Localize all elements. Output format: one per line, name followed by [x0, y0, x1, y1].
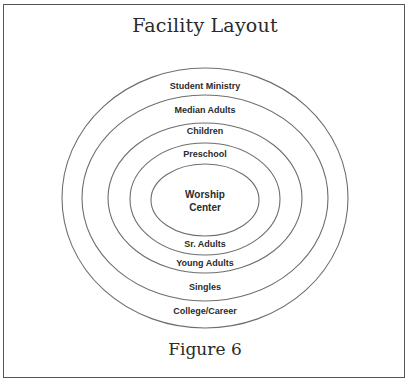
label-preschool: Preschool	[183, 149, 227, 159]
concentric-facility-diagram: Student Ministry Median Adults Children …	[0, 0, 410, 382]
label-center: Center	[189, 202, 221, 213]
label-sr-adults: Sr. Adults	[184, 239, 226, 249]
core-worship-center	[151, 164, 259, 236]
label-worship: Worship	[185, 189, 225, 200]
label-median-adults: Median Adults	[174, 105, 235, 115]
label-student-ministry: Student Ministry	[170, 81, 241, 91]
label-college-career: College/Career	[173, 306, 237, 316]
figure-caption: Figure 6	[0, 339, 410, 359]
label-singles: Singles	[189, 282, 221, 292]
label-children: Children	[187, 126, 224, 136]
label-young-adults: Young Adults	[176, 258, 234, 268]
